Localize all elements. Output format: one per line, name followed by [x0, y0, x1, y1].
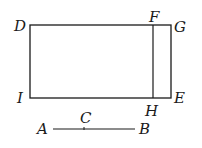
label-f: F	[148, 8, 160, 26]
label-e: E	[173, 89, 185, 107]
diagram-svg: D F G I H E A C B	[0, 0, 202, 148]
label-a: A	[35, 120, 48, 138]
label-i: I	[16, 89, 24, 107]
label-b: B	[138, 120, 150, 138]
label-d: D	[13, 17, 26, 35]
label-c: C	[80, 109, 92, 127]
geometry-diagram: D F G I H E A C B	[0, 0, 202, 148]
label-g: G	[174, 18, 186, 36]
rectangle-dgei	[30, 25, 171, 98]
label-h: H	[144, 102, 159, 120]
